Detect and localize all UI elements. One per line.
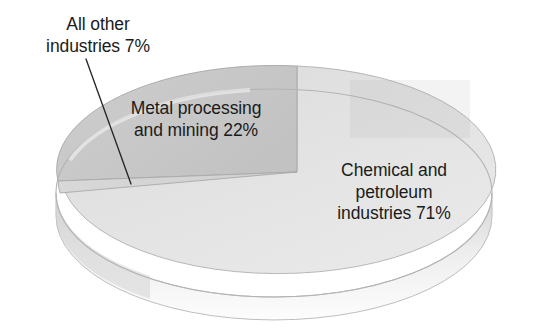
slice-label-all-other-industries: All other industries 7%	[14, 14, 182, 57]
slice-label-chemical-and-petroleum: Chemical and petroleum industries 71%	[305, 160, 483, 225]
slice-label-metal-processing-and-mining: Metal processing and mining 22%	[104, 98, 288, 141]
pie-chart-figure: All other industries 7% Metal processing…	[0, 0, 548, 336]
scan-artifact	[350, 80, 470, 138]
